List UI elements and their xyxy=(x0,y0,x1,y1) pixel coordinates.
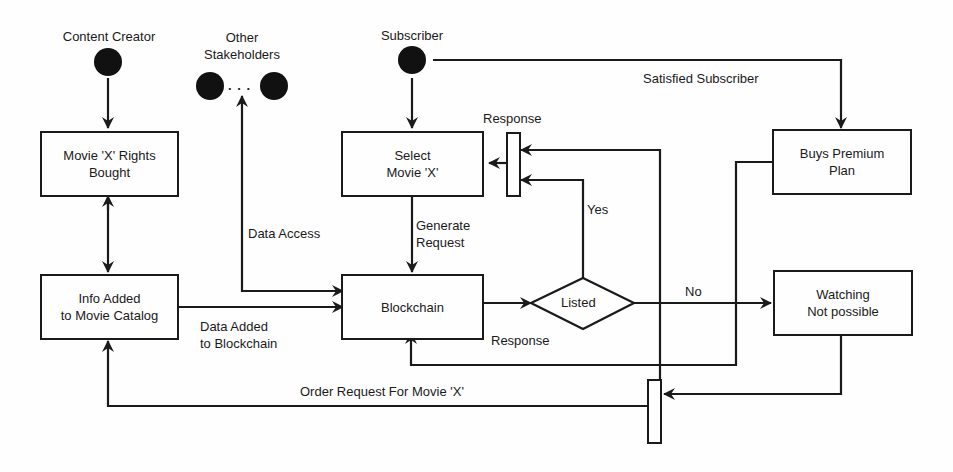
order-merge-bar xyxy=(647,379,662,444)
no-label: No xyxy=(685,283,702,300)
select-movie-box: Select Movie 'X' xyxy=(341,131,484,197)
response-merge-bar xyxy=(506,132,521,197)
generate-request-label: Generate Request xyxy=(416,217,470,251)
response-bottom-label: Response xyxy=(491,332,550,349)
edge-data-access xyxy=(242,96,343,291)
buys-premium-box: Buys Premium Plan xyxy=(772,129,912,195)
listed-label: Listed xyxy=(561,295,596,310)
stakeholders-ellipsis: . . . xyxy=(228,77,251,94)
stakeholder-node-2 xyxy=(260,72,288,100)
yes-label: Yes xyxy=(587,201,608,218)
subscriber-label: Subscriber xyxy=(362,27,462,44)
data-added-label: Data Added to Blockchain xyxy=(200,318,277,352)
content-creator-node xyxy=(94,48,122,76)
stakeholder-node-1 xyxy=(196,72,224,100)
data-access-label: Data Access xyxy=(248,225,320,242)
rights-bought-box: Movie 'X' Rights Bought xyxy=(40,131,179,197)
info-added-box: Info Added to Movie Catalog xyxy=(40,274,179,340)
edge-yes xyxy=(521,180,583,278)
subscriber-node xyxy=(398,46,426,74)
content-creator-label: Content Creator xyxy=(44,28,174,45)
response-top-label: Response xyxy=(483,110,542,127)
watching-not-possible-box: Watching Not possible xyxy=(773,270,913,336)
blockchain-box: Blockchain xyxy=(341,274,484,340)
order-request-label: Order Request For Movie 'X' xyxy=(300,383,464,400)
satisfied-subscriber-label: Satisfied Subscriber xyxy=(643,70,759,87)
other-stakeholders-label: Other Stakeholders xyxy=(180,29,304,63)
connector-layer xyxy=(0,0,953,472)
